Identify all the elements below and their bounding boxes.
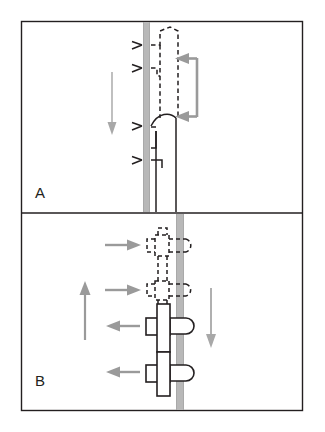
panel-a-label: A — [35, 184, 46, 201]
panel-a-membrane-band — [143, 22, 150, 212]
figure-container: A B — [0, 0, 325, 432]
panel-b-label: B — [35, 372, 46, 389]
diagram-canvas — [0, 0, 325, 432]
